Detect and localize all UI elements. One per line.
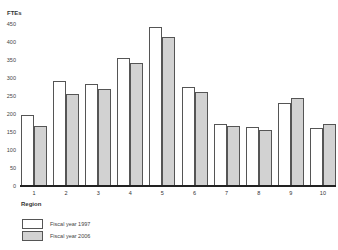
- x-tick-label: 3: [85, 190, 111, 196]
- bar-region-4-1997: [117, 58, 130, 186]
- x-tick-label: 8: [246, 190, 272, 196]
- bar-region-2-1997: [53, 81, 66, 185]
- bar-region-7-1997: [214, 124, 227, 185]
- bar-region-10-2006: [323, 124, 336, 185]
- x-axis-line: [20, 185, 336, 187]
- bar-region-4-2006: [130, 63, 143, 185]
- y-tick-label: 350: [0, 57, 16, 63]
- bar-region-2-2006: [66, 94, 79, 186]
- bar-region-5-2006: [162, 37, 175, 185]
- bar-region-1-1997: [21, 115, 34, 185]
- legend-label-2006: Fiscal year 2006: [50, 233, 90, 239]
- bar-region-1-2006: [34, 126, 47, 185]
- x-tick-label: 4: [117, 190, 143, 196]
- bar-region-8-1997: [246, 127, 259, 186]
- y-tick-label: 200: [0, 111, 16, 117]
- x-tick-label: 6: [182, 190, 208, 196]
- bar-region-3-2006: [98, 89, 111, 186]
- bar-region-9-1997: [278, 103, 291, 186]
- x-tick-label: 10: [310, 190, 336, 196]
- legend-swatch-1997: [22, 219, 43, 229]
- y-tick-label: 100: [0, 147, 16, 153]
- bar-region-10-1997: [310, 128, 323, 186]
- y-tick-label: 50: [0, 165, 16, 171]
- x-tick-label: 5: [149, 190, 175, 196]
- x-tick-label: 9: [278, 190, 304, 196]
- bar-region-5-1997: [149, 27, 162, 185]
- y-axis-title: FTEs: [7, 10, 22, 16]
- x-axis-title: Region: [21, 201, 41, 207]
- x-tick-label: 1: [21, 190, 47, 196]
- y-tick-label: 250: [0, 93, 16, 99]
- legend-swatch-2006: [22, 231, 43, 241]
- bar-region-7-2006: [227, 126, 240, 185]
- y-tick-label: 450: [0, 21, 16, 27]
- x-tick-label: 7: [214, 190, 240, 196]
- bar-region-6-1997: [182, 87, 195, 186]
- x-tick-label: 2: [53, 190, 79, 196]
- bar-region-8-2006: [259, 130, 272, 186]
- bar-region-6-2006: [195, 92, 208, 185]
- legend-label-1997: Fiscal year 1997: [50, 221, 90, 227]
- bar-region-9-2006: [291, 98, 304, 185]
- y-tick-label: 0: [0, 183, 16, 189]
- y-tick-label: 300: [0, 75, 16, 81]
- y-tick-label: 400: [0, 39, 16, 45]
- y-tick-label: 150: [0, 129, 16, 135]
- bar-region-3-1997: [85, 84, 98, 186]
